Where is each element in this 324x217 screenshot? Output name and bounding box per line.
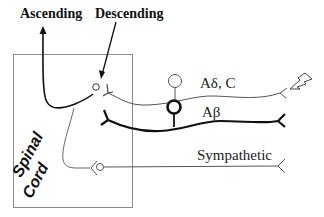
ascending-pathway — [43, 30, 93, 108]
sympathetic-label: Sympathetic — [197, 147, 272, 163]
a-beta-label: Aβ — [202, 104, 220, 120]
a-delta-c-label: Aδ, C — [200, 75, 235, 91]
a-delta-c-soma — [169, 75, 182, 88]
sympathetic-ganglion-circle — [97, 164, 104, 171]
lightning-stimulus-icon — [290, 73, 312, 89]
pain-pathway-diagram: Spinal Cord Ascending Descending Aδ, C A… — [0, 0, 324, 217]
descending-terminal-circle — [93, 84, 100, 91]
descending-label: Descending — [95, 6, 163, 21]
a-beta-peripheral-terminal — [278, 114, 285, 127]
sympathetic-terminal — [278, 159, 285, 173]
descending-arrowhead — [99, 70, 105, 79]
ascending-label: Ascending — [20, 6, 82, 21]
a-beta-soma — [168, 101, 181, 114]
a-delta-c-fiber — [108, 93, 280, 105]
a-beta-fiber — [108, 120, 278, 131]
sympathetic-preganglionic — [63, 108, 90, 168]
sympathetic-synapse-fork — [91, 161, 97, 175]
a-beta-central-terminal — [101, 110, 108, 125]
a-delta-c-peripheral-terminal — [280, 88, 287, 98]
sympathetic-postganglionic — [104, 166, 278, 167]
ascending-arrowhead — [40, 26, 47, 34]
descending-arrow-line — [102, 22, 116, 75]
